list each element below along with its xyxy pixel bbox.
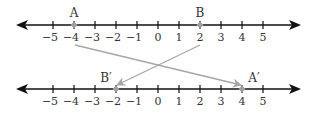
bottom-tick-labels: −5−4−3−2−1012345 [42, 95, 267, 108]
tick-label: −4 [63, 95, 79, 108]
tick-label: −1 [126, 95, 142, 108]
point-a-prime-label: A′ [247, 71, 260, 85]
tick-label: −3 [84, 31, 100, 44]
bottom-number-line: −5−4−3−2−1012345 [16, 84, 301, 108]
point-a-label: A [69, 6, 79, 20]
mapping-arrow-b-to-b-prime [117, 45, 200, 85]
tick-label: 0 [155, 95, 162, 108]
tick-label: 5 [260, 31, 267, 44]
tick-label: −5 [42, 31, 58, 44]
top-number-line: −5−4−3−2−1012345 [16, 20, 301, 44]
point-a-marker [71, 22, 78, 29]
tick-label: 3 [218, 31, 225, 44]
tick-label: 0 [155, 31, 162, 44]
point-b-prime-marker [113, 86, 120, 93]
tick-label: 4 [239, 95, 246, 108]
tick-label: 2 [197, 95, 204, 108]
tick-label: 2 [197, 31, 204, 44]
tick-label: −2 [105, 95, 121, 108]
tick-label: −1 [126, 31, 142, 44]
point-b-prime-label: B′ [100, 71, 112, 85]
tick-label: −4 [63, 31, 79, 44]
tick-label: 5 [260, 95, 267, 108]
point-b-marker [197, 22, 204, 29]
point-a-prime-marker [239, 86, 246, 93]
tick-label: −5 [42, 95, 58, 108]
number-line-diagram: −5−4−3−2−1012345 −5−4−3−2−1012345 A B B′… [0, 0, 320, 117]
tick-label: 1 [176, 31, 183, 44]
tick-label: 3 [218, 95, 225, 108]
tick-label: −3 [84, 95, 100, 108]
point-b-label: B [196, 6, 205, 20]
tick-label: −2 [105, 31, 121, 44]
tick-label: 1 [176, 95, 183, 108]
tick-label: 4 [239, 31, 246, 44]
points: A B B′ A′ [69, 6, 260, 93]
top-tick-labels: −5−4−3−2−1012345 [42, 31, 267, 44]
